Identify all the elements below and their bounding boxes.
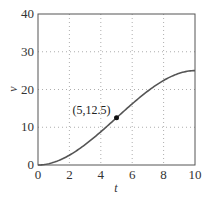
- point-annotation: (5,12.5): [73, 103, 111, 117]
- x-axis-label: t: [114, 181, 118, 195]
- x-tick-label: 0: [35, 167, 42, 182]
- y-tick-labels: 010203040: [21, 6, 34, 172]
- y-axis-label: v: [6, 86, 20, 92]
- x-tick-label: 10: [189, 167, 202, 182]
- x-tick-label: 8: [160, 167, 167, 182]
- x-tick-label: 2: [66, 167, 73, 182]
- line-chart: (5,12.5) 0246810 010203040 t v: [0, 0, 207, 199]
- x-tick-labels: 0246810: [35, 167, 202, 182]
- grid-lines: [38, 14, 195, 165]
- y-tick-label: 40: [21, 6, 34, 21]
- y-tick-label: 0: [28, 157, 35, 172]
- annotated-point: [114, 115, 119, 120]
- y-tick-label: 10: [21, 119, 34, 134]
- x-tick-label: 6: [129, 167, 136, 182]
- y-tick-label: 20: [21, 82, 34, 97]
- plot-frame: [38, 14, 195, 165]
- x-tick-label: 4: [98, 167, 105, 182]
- y-tick-label: 30: [21, 44, 34, 59]
